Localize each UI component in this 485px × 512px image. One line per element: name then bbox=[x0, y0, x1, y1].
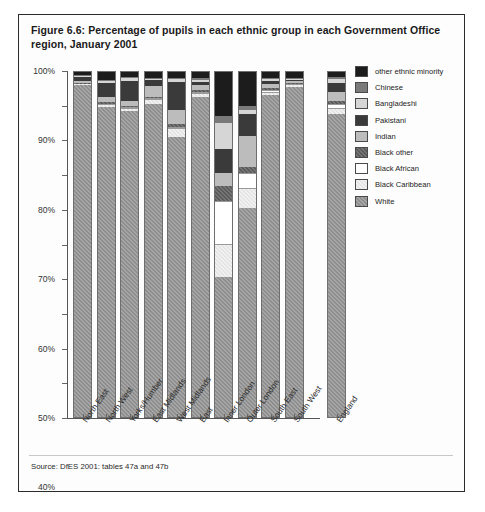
bar-south-east[interactable] bbox=[261, 71, 280, 418]
legend-item-chinese[interactable]: Chinese bbox=[355, 81, 459, 97]
bar-east[interactable] bbox=[191, 71, 210, 418]
segment-bangladeshi bbox=[327, 79, 346, 82]
segment-pakistani bbox=[144, 80, 163, 86]
bar-england[interactable] bbox=[327, 71, 346, 418]
bar-outer-london[interactable] bbox=[238, 71, 257, 418]
segment-pakistani bbox=[285, 80, 304, 81]
legend-label: Black African bbox=[375, 163, 419, 174]
segment-pakistani bbox=[120, 81, 139, 101]
segment-white bbox=[261, 95, 280, 418]
segment-chinese bbox=[120, 77, 139, 78]
segment-black-caribbean bbox=[144, 100, 163, 104]
segment-black-caribbean bbox=[73, 84, 92, 85]
legend-swatch-icon bbox=[355, 179, 368, 190]
legend-item-indian[interactable]: Indian bbox=[355, 130, 459, 146]
segment-chinese bbox=[261, 78, 280, 79]
legend-swatch-icon bbox=[355, 66, 368, 77]
segment-bangladeshi bbox=[238, 110, 257, 115]
segment-other-ethnic-minority bbox=[144, 71, 163, 78]
segment-pakistani bbox=[191, 82, 210, 85]
plot-frame: 100%90%80%70%60%50%40%30%20%10%0% bbox=[67, 71, 319, 418]
bar-west-midlands[interactable] bbox=[167, 71, 186, 418]
segment-other-ethnic-minority bbox=[261, 71, 280, 78]
segment-pakistani bbox=[261, 81, 280, 84]
segment-other-ethnic-minority bbox=[214, 71, 233, 116]
y-tick-label: 60% bbox=[38, 344, 55, 354]
legend-swatch-icon bbox=[355, 131, 368, 142]
segment-black-caribbean bbox=[120, 109, 139, 111]
y-tick-label: 50% bbox=[38, 413, 55, 423]
y-tick-label: 90% bbox=[38, 135, 55, 145]
legend-swatch-icon bbox=[355, 196, 368, 207]
segment-black-other bbox=[120, 106, 139, 107]
x-axis-labels: North EastNorth WestYorks/HumberEast Mid… bbox=[67, 419, 337, 481]
segment-bangladeshi bbox=[285, 79, 304, 80]
source-note: Source: DfES 2001: tables 47a and 47b bbox=[31, 462, 168, 471]
segment-indian bbox=[144, 86, 163, 96]
legend-label: Chinese bbox=[375, 82, 403, 93]
legend-item-black-caribbean[interactable]: Black Caribbean bbox=[355, 178, 459, 194]
segment-white bbox=[120, 111, 139, 418]
legend-label: other ethnic minority bbox=[375, 66, 443, 77]
y-tick: 90% bbox=[62, 106, 67, 107]
bar-inner-london[interactable] bbox=[214, 71, 233, 418]
y-tick: 40% bbox=[62, 279, 67, 280]
legend-item-black-other[interactable]: Black other bbox=[355, 146, 459, 162]
legend-label: Pakistani bbox=[375, 115, 406, 126]
segment-pakistani bbox=[167, 82, 186, 110]
segment-chinese bbox=[214, 116, 233, 123]
segment-indian bbox=[191, 85, 210, 91]
segment-bangladeshi bbox=[167, 79, 186, 82]
segment-black-caribbean bbox=[327, 109, 346, 114]
y-tick-label: 80% bbox=[38, 205, 55, 215]
segment-black-other bbox=[238, 167, 257, 173]
segment-black-african bbox=[214, 201, 233, 244]
segment-black-other bbox=[327, 101, 346, 104]
segment-black-african bbox=[327, 104, 346, 110]
bar-south-west[interactable] bbox=[285, 71, 304, 418]
segment-white bbox=[167, 137, 186, 418]
segment-indian bbox=[238, 136, 257, 167]
y-tick: 70% bbox=[62, 175, 67, 176]
segment-black-other bbox=[73, 83, 92, 84]
y-tick: 20% bbox=[62, 349, 67, 350]
chart-legend: other ethnic minorityChineseBangladeshiP… bbox=[355, 65, 459, 211]
legend-label: Black other bbox=[375, 147, 413, 158]
segment-indian bbox=[285, 81, 304, 83]
segment-indian bbox=[261, 84, 280, 89]
y-tick: 10% bbox=[62, 383, 67, 384]
bar-east-midlands[interactable] bbox=[144, 71, 163, 418]
y-tick: 60% bbox=[62, 210, 67, 211]
segment-other-ethnic-minority bbox=[327, 71, 346, 77]
segment-chinese bbox=[285, 78, 304, 79]
legend-item-bangladeshi[interactable]: Bangladeshi bbox=[355, 97, 459, 113]
legend-item-other-ethnic-minority[interactable]: other ethnic minority bbox=[355, 65, 459, 81]
segment-other-ethnic-minority bbox=[191, 71, 210, 78]
bar-north-east[interactable] bbox=[73, 71, 92, 418]
segment-indian bbox=[97, 97, 116, 103]
segment-chinese bbox=[238, 106, 257, 110]
legend-item-white[interactable]: White bbox=[355, 195, 459, 211]
segment-bangladeshi bbox=[144, 79, 163, 80]
segment-white bbox=[191, 97, 210, 418]
legend-label: Indian bbox=[375, 131, 396, 142]
segment-indian bbox=[167, 110, 186, 124]
plot-area: 100%90%80%70%60%50%40%30%20%10%0% bbox=[67, 71, 319, 418]
legend-swatch-icon bbox=[355, 82, 368, 93]
bar-yorks-humber[interactable] bbox=[120, 71, 139, 418]
source-divider bbox=[29, 455, 453, 456]
segment-black-caribbean bbox=[167, 129, 186, 137]
segment-black-african bbox=[167, 127, 186, 129]
segment-black-caribbean bbox=[261, 93, 280, 96]
segment-black-other bbox=[97, 102, 116, 103]
figure-panel: Figure 6.6: Percentage of pupils in each… bbox=[18, 14, 465, 492]
legend-item-black-african[interactable]: Black African bbox=[355, 162, 459, 178]
segment-black-african bbox=[144, 98, 163, 100]
segment-other-ethnic-minority bbox=[238, 71, 257, 106]
segment-chinese bbox=[97, 80, 116, 81]
segment-pakistani bbox=[214, 149, 233, 173]
segment-chinese bbox=[327, 77, 346, 79]
legend-item-pakistani[interactable]: Pakistani bbox=[355, 114, 459, 130]
bar-north-west[interactable] bbox=[97, 71, 116, 418]
segment-black-african bbox=[238, 173, 257, 189]
